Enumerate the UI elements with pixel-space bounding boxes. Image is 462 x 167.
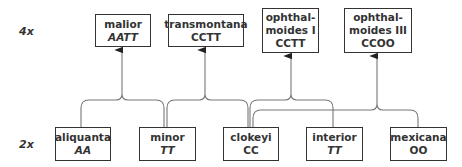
polyploid-origin-diagram: 4x 2x malior AATT transmontana CCTT opht… [0,0,462,167]
taxon-box-mexicana: mexicana OO [390,127,447,161]
taxon-box-ophthalmoides-3: ophthal- moides III CCOO [344,8,412,53]
genome-formula: AA [75,144,91,157]
brace-transmontana [167,94,248,127]
taxon-name: clokeyi [230,131,271,144]
taxon-box-aliquanta: aliquanta AA [55,127,111,161]
genome-formula: TT [327,144,342,157]
taxon-box-ophthalmoides-1: ophthal- moides I CCTT [262,8,319,53]
taxon-name: mexicana [390,131,446,144]
taxon-name: minor [150,131,184,144]
genome-formula: CCTT [191,31,221,44]
taxon-name-line2: moides III [349,24,407,37]
ploidy-label-2x: 2x [19,138,34,151]
taxon-name-line2: moides I [265,24,315,37]
taxon-box-clokeyi: clokeyi CC [223,127,279,161]
taxon-name: interior [312,131,356,144]
brace-ophthalmoides-3 [253,104,418,127]
genome-formula: TT [160,144,175,157]
taxon-box-interior: interior TT [306,127,363,161]
taxon-name: transmontana [164,18,247,31]
genome-formula: CCOO [361,37,394,50]
ploidy-label-4x: 4x [19,25,34,38]
brace-malior [81,94,164,127]
genome-formula: CCTT [276,37,306,50]
taxon-name-line1: ophthal- [353,11,403,24]
taxon-box-transmontana: transmontana CCTT [168,14,244,47]
taxon-name-line1: ophthal- [266,11,316,24]
taxon-box-malior: malior AATT [95,14,151,47]
taxon-box-minor: minor TT [139,127,196,161]
taxon-name: malior [104,18,142,31]
genome-formula: CC [243,144,258,157]
taxon-name: aliquanta [55,131,111,144]
genome-formula: OO [410,144,428,157]
genome-formula: AATT [108,31,138,44]
